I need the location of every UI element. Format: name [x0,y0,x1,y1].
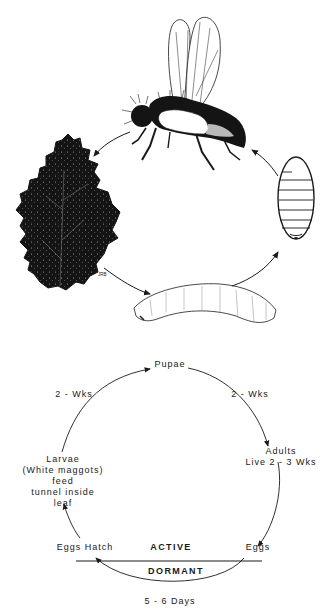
label-pupae-to-adults-duration: 2 - Wks [228,389,272,400]
artist-signature: JRB [98,272,107,277]
label-eggs-hatch: Eggs Hatch [50,542,120,553]
fly-head-icon [131,105,153,127]
label-larvae: Larvae (White maggots) feed tunnel insid… [18,454,108,509]
label-active: ACTIVE [146,542,196,553]
label-larvae-to-pupae-duration: 2 - Wks [52,389,96,400]
larvae-title: Larvae [18,454,108,465]
larvae-desc-3: tunnel inside [18,487,108,498]
arrow-pupa-to-adult [252,150,278,176]
label-eggs-duration: 5 - 6 Days [140,596,200,607]
label-dormant: DORMANT [146,566,206,577]
larvae-desc-4: leaf [18,498,108,509]
label-eggs: Eggs [240,542,276,553]
arrow-larva-to-pupa [232,252,278,286]
adults-title: Adults [236,446,326,457]
pupa-drawing [278,157,314,239]
arrow-leaf-to-larva [104,268,150,294]
arrow-adult-to-leaf [94,132,130,156]
larvae-desc-1: (White maggots) [18,465,108,476]
adult-fly-drawing [122,17,246,170]
arrow-hatch-to-larvae [64,504,80,538]
mined-leaf-drawing: JRB [16,134,120,290]
label-adults: Adults Live 2 - 3 Wks [236,446,326,468]
life-cycle-art: JRB [0,0,330,614]
larva-drawing [134,284,276,323]
arrow-larvae-to-pupae [62,369,150,452]
arrow-pupae-to-adults [188,368,268,446]
arrow-adults-to-eggs [258,462,280,546]
adults-lifespan: Live 2 - 3 Wks [236,457,326,468]
label-pupae: Pupae [148,359,192,370]
larvae-desc-2: feed [18,476,108,487]
